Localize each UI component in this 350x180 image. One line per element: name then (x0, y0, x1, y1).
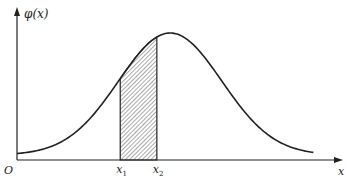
origin-label: O (4, 164, 13, 177)
y-axis-arrow-icon (14, 7, 20, 16)
density-curve (17, 33, 313, 154)
x-axis-arrow-icon (334, 157, 343, 163)
shaded-area (120, 37, 157, 160)
x1-label: x1 (116, 163, 127, 178)
y-axis-label: φ(x) (24, 7, 49, 21)
x2-label: x2 (153, 163, 164, 178)
x-axis-label: x (338, 165, 345, 178)
normal-distribution-diagram: φ(x) O x x1 x2 (0, 0, 350, 180)
